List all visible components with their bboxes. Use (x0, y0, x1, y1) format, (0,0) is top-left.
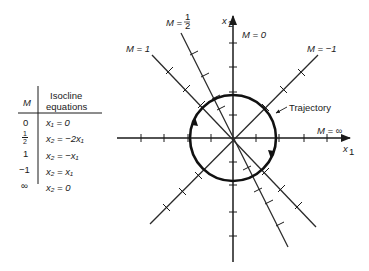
trajectory-pointer-arrow-icon (276, 107, 287, 113)
label-m-one: M = 1 (126, 43, 150, 54)
isocline-phase-plane: Trajectory M = 1 M = 1 2 M = 0 M = −1 M … (0, 0, 369, 271)
svg-text:x: x (342, 143, 349, 154)
trajectory-label: Trajectory (289, 102, 331, 113)
x2-axis-label: x 2 (221, 15, 233, 29)
label-m-half: M = 1 2 (166, 11, 190, 31)
isocline-m-half (181, 33, 288, 247)
isocline-m-neg-1 (150, 55, 318, 224)
label-m-zero: M = 0 (242, 29, 267, 40)
svg-text:M =: M = (166, 17, 183, 28)
svg-text:x: x (221, 15, 228, 26)
label-m-infinity: M = ∞ (317, 125, 343, 136)
isocline-m-1 (152, 55, 316, 227)
label-m-neg-one: M = −1 (307, 43, 337, 54)
svg-text:1: 1 (349, 146, 354, 157)
svg-text:2: 2 (185, 20, 190, 31)
x1-axis-label: x 1 (342, 143, 354, 157)
x2-axis (229, 16, 237, 262)
svg-text:2: 2 (228, 18, 233, 29)
